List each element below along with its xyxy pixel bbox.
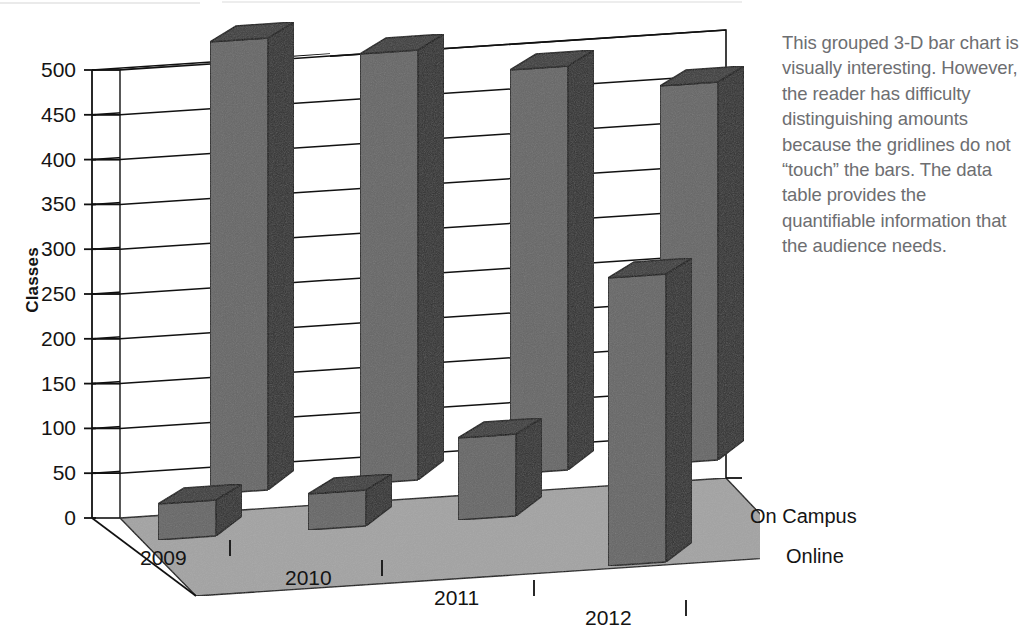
x-tick-label-2012: 2012 — [585, 606, 632, 630]
y-axis-tick-labels: 500 450 400 350 300 250 200 150 100 50 0 — [14, 0, 76, 638]
y-tick-label: 100 — [20, 417, 76, 438]
figure-3d-bar-chart: Classes 500 450 400 350 300 250 200 150 … — [0, 0, 1028, 638]
x-tick-label-2011: 2011 — [434, 586, 479, 610]
y-tick-label: 350 — [20, 193, 76, 214]
y-tick-label: 300 — [20, 238, 76, 259]
y-axis-ticks — [84, 70, 96, 518]
bar-online-2012 — [608, 258, 692, 566]
y-tick-label: 250 — [20, 283, 76, 304]
caption-block: This grouped 3-D bar chart is visually i… — [782, 30, 1020, 259]
y-tick-label: 150 — [20, 373, 76, 394]
bar-on-campus-2010 — [360, 34, 444, 484]
caption-text: This grouped 3-D bar chart is visually i… — [782, 30, 1020, 259]
x-tick-label-2010: 2010 — [285, 566, 332, 590]
y-tick-label: 500 — [20, 59, 76, 80]
bar-on-campus-2011 — [510, 50, 594, 474]
chart-canvas — [0, 0, 760, 638]
x-tick-label-2009: 2009 — [140, 546, 187, 570]
y-tick-label: 50 — [20, 462, 76, 483]
bar-on-campus-2009 — [210, 22, 294, 494]
series-label-online: Online — [786, 545, 844, 568]
bar-online-2011 — [458, 418, 542, 520]
y-tick-label: 450 — [20, 104, 76, 125]
y-tick-label: 0 — [20, 507, 76, 528]
y-tick-label: 400 — [20, 149, 76, 170]
y-tick-label: 200 — [20, 328, 76, 349]
series-label-on-campus: On Campus — [750, 505, 857, 528]
